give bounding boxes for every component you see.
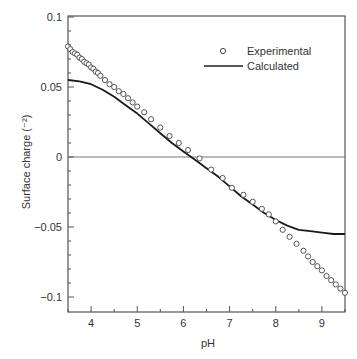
experimental-data-point [338,286,343,291]
experimental-data-point [319,268,324,273]
experimental-data-point [167,133,172,138]
experimental-data-point [176,140,181,145]
legend-calculated-label: Calculated [247,60,299,72]
experimental-data-point [259,206,264,211]
legend-experimental-label: Experimental [247,45,311,57]
experimental-data-point [135,104,140,109]
experimental-points [65,44,347,296]
experimental-data-point [209,167,214,172]
x-axis-title: pH [201,337,215,349]
experimental-data-point [294,241,299,246]
experimental-data-point [220,175,225,180]
experimental-data-point [158,125,163,130]
experimental-data-point [112,84,117,89]
y-tick-label: 0 [56,151,62,163]
experimental-data-point [329,278,334,283]
experimental-data-point [250,199,255,204]
y-tick-label: −0.05 [34,221,62,233]
x-tick-label: 6 [180,317,186,329]
x-tick-label: 8 [273,317,279,329]
experimental-data-point [149,117,154,122]
experimental-data-point [121,91,126,96]
x-axis-ticks: 456789 [68,306,345,329]
legend-experimental-marker-icon [220,48,225,53]
experimental-data-point [142,110,147,115]
experimental-data-point [287,234,292,239]
experimental-data-point [125,96,130,101]
legend: Experimental Calculated [204,45,311,72]
chart: 0.10.050−0.05−0.1 456789 pH Surface char… [0,0,357,359]
experimental-data-point [310,259,315,264]
experimental-data-point [273,219,278,224]
experimental-data-point [301,248,306,253]
experimental-data-point [266,212,271,217]
x-tick-label: 5 [134,317,140,329]
experimental-data-point [229,185,234,190]
x-tick-label: 7 [227,317,233,329]
experimental-data-point [102,77,107,82]
experimental-data-point [305,254,310,259]
plot-frame [68,16,345,312]
experimental-data-point [324,273,329,278]
y-tick-label: −0.1 [40,291,62,303]
experimental-data-point [197,156,202,161]
x-tick-label: 4 [88,317,94,329]
experimental-data-point [98,73,103,78]
experimental-data-point [130,100,135,105]
x-tick-label: 9 [319,317,325,329]
y-axis-title: Surface charge (⁻²) [20,115,32,210]
experimental-data-point [280,227,285,232]
experimental-data-point [333,282,338,287]
plot-border [68,16,345,312]
experimental-data-point [241,192,246,197]
experimental-data-point [185,147,190,152]
experimental-data-point [315,264,320,269]
y-tick-label: 0.05 [41,81,62,93]
experimental-data-point [342,290,347,295]
y-tick-label: 0.1 [47,11,62,23]
